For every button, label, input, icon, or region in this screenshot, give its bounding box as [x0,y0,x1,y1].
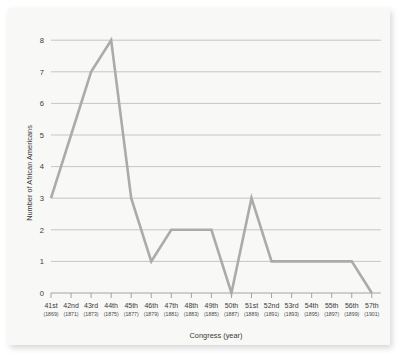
figure-card: 012345678 41st(1869)42nd(1871)43rd(1873)… [8,8,390,345]
x-tick-label-congress-13: 54th [305,302,319,309]
x-tick-label-congress-9: 50th [225,302,239,309]
x-tick-label-year-15: (1899) [344,311,359,317]
x-tick-label-congress-15: 56th [345,302,359,309]
y-tick-label-7: 7 [40,68,44,77]
x-tick-label-year-13: (1895) [304,311,319,317]
x-tick-label-year-2: (1873) [84,311,99,317]
x-tick-label-year-12: (1893) [284,311,299,317]
chart-canvas: 012345678 41st(1869)42nd(1871)43rd(1873)… [8,8,390,345]
x-tick-label-congress-11: 52nd [264,302,280,309]
page-root: 012345678 41st(1869)42nd(1871)43rd(1873)… [0,0,404,357]
x-tick-label-year-10: (1889) [244,311,259,317]
x-tick-label-congress-8: 49th [205,302,219,309]
x-tick-label-year-6: (1881) [164,311,179,317]
x-tick-label-congress-2: 43rd [84,302,98,309]
x-tick-label-year-9: (1887) [224,311,239,317]
x-tick-label-congress-4: 45th [124,302,138,309]
x-tick-label-year-16: (1901) [364,311,379,317]
line-chart: 012345678 41st(1869)42nd(1871)43rd(1873)… [8,8,390,345]
x-tick-label-congress-10: 51st [245,302,258,309]
x-tick-label-congress-3: 44th [104,302,118,309]
gridlines-group [51,40,381,261]
x-axis-title: Congress (year) [190,331,243,340]
y-tick-label-5: 5 [40,131,44,140]
x-tick-label-year-3: (1875) [104,311,119,317]
x-tick-label-year-4: (1877) [124,311,139,317]
x-tick-label-congress-6: 47th [164,302,178,309]
x-tick-label-year-14: (1897) [324,311,339,317]
y-axis-title: Number of African Americans [25,125,34,221]
x-tick-label-year-1: (1871) [64,311,79,317]
x-axis-group [51,293,381,298]
x-tick-label-year-7: (1883) [184,311,199,317]
x-tick-label-year-8: (1885) [204,311,219,317]
x-tick-label-congress-1: 42nd [63,302,79,309]
x-tick-label-congress-5: 46th [144,302,158,309]
x-tick-label-congress-0: 41st [44,302,57,309]
y-tick-label-1: 1 [40,257,44,266]
x-axis-tick-labels: 41st(1869)42nd(1871)43rd(1873)44th(1875)… [44,302,380,317]
y-tick-label-0: 0 [40,289,44,298]
x-tick-label-year-5: (1879) [144,311,159,317]
y-axis-tick-labels: 012345678 [40,36,44,298]
x-tick-label-congress-12: 53rd [285,302,299,309]
x-tick-label-congress-16: 57th [365,302,379,309]
y-tick-label-8: 8 [40,36,44,45]
y-tick-label-4: 4 [40,162,44,171]
x-tick-label-year-11: (1891) [264,311,279,317]
y-tick-label-6: 6 [40,99,44,108]
y-tick-label-2: 2 [40,226,44,235]
x-tick-label-year-0: (1869) [44,311,59,317]
x-tick-label-congress-7: 48th [185,302,199,309]
y-tick-label-3: 3 [40,194,44,203]
x-tick-label-congress-14: 55th [325,302,339,309]
